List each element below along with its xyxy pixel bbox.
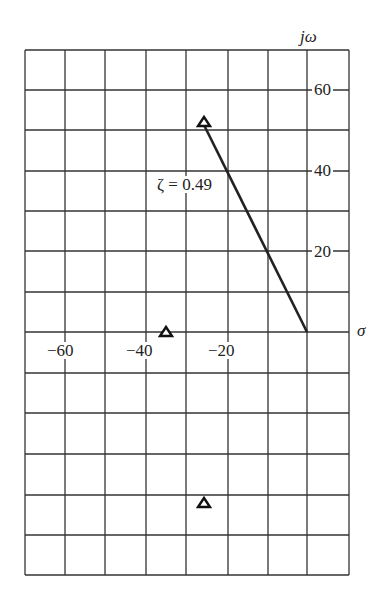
y-tick-60: 60 (312, 81, 333, 98)
y-tick-40: 40 (312, 162, 333, 179)
y-tick-20: 20 (312, 243, 333, 260)
damping-line (204, 125, 307, 332)
pole-lower-triangle (198, 498, 210, 507)
x-tick-minus-20: −20 (206, 342, 237, 359)
grid (25, 50, 349, 575)
pole-upper-triangle (198, 117, 210, 126)
damping-ratio-label: ζ = 0.49 (155, 176, 214, 193)
x-axis-label: σ (355, 322, 367, 339)
y-axis-label: jω (298, 28, 319, 45)
pole-real-triangle (160, 327, 172, 336)
x-tick-minus-40: −40 (124, 342, 155, 359)
x-tick-minus-60: −60 (45, 342, 76, 359)
